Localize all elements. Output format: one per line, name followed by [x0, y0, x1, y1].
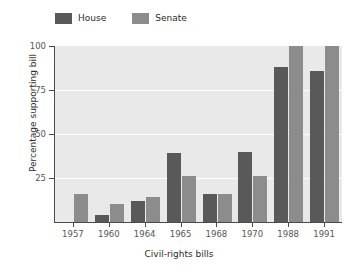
bar-house-1960 [95, 215, 109, 222]
x-axis-tick-label: 1988 [268, 230, 308, 239]
legend-label-senate: Senate [155, 13, 187, 24]
legend-label-house: House [78, 13, 106, 24]
x-axis-tick-label: 1968 [196, 230, 236, 239]
y-axis-tick-label: 25 [35, 174, 46, 183]
x-axis-tick-mark [181, 223, 182, 227]
bar-group [234, 46, 270, 222]
bar-group [55, 46, 91, 222]
chart-legend: House Senate [55, 10, 187, 26]
bar-senate-1970 [253, 176, 267, 222]
bars-layer [55, 46, 342, 222]
bar-house-1964 [131, 201, 145, 222]
x-axis-tick-label: 1964 [125, 230, 165, 239]
bar-house-1991 [310, 71, 324, 222]
x-axis-tick-mark [252, 223, 253, 227]
x-axis-tick-mark [73, 223, 74, 227]
bar-group [306, 46, 342, 222]
y-axis-tick-mark [49, 90, 54, 91]
x-axis-title: Civil-rights bills [0, 249, 358, 259]
x-axis-tick-label: 1965 [161, 230, 201, 239]
y-axis-tick-label: 75 [35, 86, 46, 95]
y-axis-title: Percentage supporting bill [28, 33, 38, 193]
y-axis-tick-mark [49, 134, 54, 135]
legend-entry-house: House [55, 13, 106, 24]
y-axis-tick-label: 100 [30, 42, 46, 51]
bar-group [163, 46, 199, 222]
bar-group [91, 46, 127, 222]
x-axis-tick-mark [288, 223, 289, 227]
x-axis-tick-mark [324, 223, 325, 227]
y-axis-tick-mark [49, 178, 54, 179]
bar-house-1988 [274, 67, 288, 222]
x-axis-tick-mark [145, 223, 146, 227]
bar-senate-1964 [146, 197, 160, 222]
legend-entry-senate: Senate [132, 13, 187, 24]
x-axis-tick-mark [109, 223, 110, 227]
bar-house-1965 [167, 153, 181, 222]
bar-house-1968 [203, 194, 217, 222]
legend-swatch-house [55, 13, 72, 24]
x-axis-tick-label: 1970 [232, 230, 272, 239]
bar-senate-1988 [289, 46, 303, 222]
bar-group [199, 46, 235, 222]
bar-chart-figure: House Senate Percentage supporting bill … [0, 0, 358, 272]
x-axis-tick-mark [216, 223, 217, 227]
legend-swatch-senate [132, 13, 149, 24]
bar-senate-1965 [182, 176, 196, 222]
x-axis-tick-label: 1991 [304, 230, 344, 239]
bar-senate-1960 [110, 204, 124, 222]
y-axis-tick-mark [49, 46, 54, 47]
y-axis-tick-label: 50 [35, 130, 46, 139]
x-axis-tick-label: 1960 [89, 230, 129, 239]
bar-senate-1957 [74, 194, 88, 222]
x-axis-line [54, 222, 342, 223]
bar-senate-1968 [218, 194, 232, 222]
x-axis-tick-label: 1957 [53, 230, 93, 239]
bar-group [127, 46, 163, 222]
bar-group [270, 46, 306, 222]
bar-house-1970 [238, 152, 252, 222]
bar-senate-1991 [325, 46, 339, 222]
